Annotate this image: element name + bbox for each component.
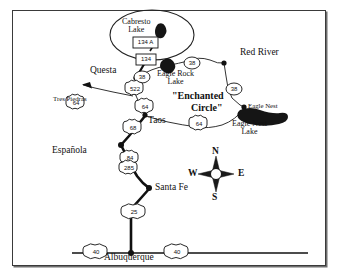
shield-label-25: 25	[124, 209, 144, 215]
compass-rose	[198, 156, 234, 192]
lake-label-eagle-nest-lake: Eagle Nest Lake	[232, 120, 267, 137]
shield-label-64-west: 64	[67, 100, 85, 106]
city-label-taos: Taos	[148, 116, 166, 126]
city-label-espanola: Española	[52, 146, 87, 156]
lake-label-eagle-rock: Eagle Rock Lake	[157, 70, 194, 87]
enchanted-circle-map: Cabresto Lake Red River Questa Eagle Roc…	[0, 0, 340, 278]
city-label-albuquerque: Albuquerque	[104, 253, 154, 263]
city-dot-santa-fe	[146, 185, 152, 191]
city-label-eagle-nest: Eagle Nest	[248, 102, 278, 109]
compass-label-north: N	[212, 146, 219, 156]
road-25-santa-fe-albuquerque	[131, 189, 149, 253]
shield-label-522: 522	[126, 86, 144, 92]
compass-hub	[211, 169, 222, 180]
shield-label-38-north: 38	[184, 60, 200, 66]
shield-label-134: 134	[137, 56, 155, 62]
cabresto-lake-water	[155, 23, 167, 38]
map-graphics	[0, 0, 340, 278]
compass-label-west: W	[188, 168, 198, 178]
compass-label-south: S	[212, 192, 217, 202]
shield-label-84: 84	[121, 155, 139, 161]
shield-label-64-taos: 64	[136, 104, 154, 110]
city-label-questa: Questa	[90, 66, 116, 76]
city-dot-eagle-nest	[241, 104, 246, 109]
city-label-red-river: Red River	[240, 48, 279, 58]
compass-label-east: E	[238, 168, 244, 178]
lake-label-cabresto: Cabresto Lake	[122, 18, 150, 35]
shield-label-285: 285	[120, 165, 138, 171]
shield-label-134a: 134 A	[135, 39, 156, 45]
city-dot-red-river	[221, 60, 226, 65]
shield-label-64-south: 64	[190, 121, 208, 127]
shield-label-40-east: 40	[167, 249, 187, 255]
city-label-santa-fe: Santa Fe	[155, 183, 188, 193]
annotation-enchanted: "Enchanted	[172, 91, 224, 102]
shield-label-40-west: 40	[86, 249, 106, 255]
shield-label-38-east: 38	[226, 86, 242, 92]
city-dot-espanola	[118, 142, 124, 148]
annotation-circle: Circle"	[191, 103, 222, 114]
shield-label-68: 68	[124, 125, 142, 131]
shield-label-38-questa: 38	[134, 74, 150, 80]
